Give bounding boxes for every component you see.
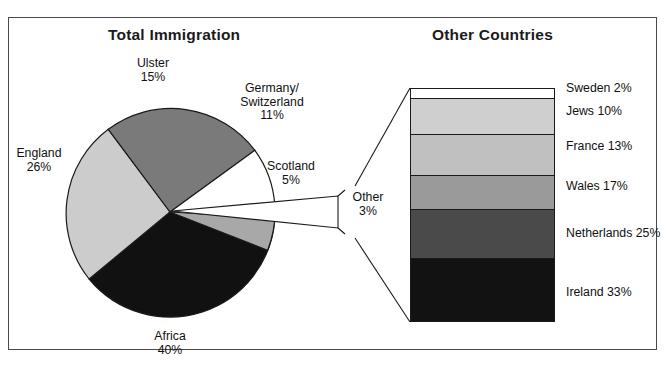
pie-label-africa: Africa 40% bbox=[136, 330, 204, 357]
pie-label-germany-line1: Germany/ bbox=[226, 82, 318, 96]
bar-label-wales: Wales 17% bbox=[566, 179, 628, 193]
pie-label-germany-line2: Switzerland bbox=[226, 96, 318, 110]
pie-label-germany-switzerland: Germany/ Switzerland 11% bbox=[226, 82, 318, 123]
stacked-bar-other-countries bbox=[410, 88, 555, 322]
pie-label-scotland-name: Scotland bbox=[255, 160, 327, 174]
pie-label-england-pct: 26% bbox=[8, 161, 70, 175]
bar-label-france: France 13% bbox=[566, 139, 632, 153]
pie-label-other-pct: 3% bbox=[344, 205, 392, 219]
pie-label-other-name: Other bbox=[344, 191, 392, 205]
bar-label-netherlands: Netherlands 25% bbox=[566, 226, 660, 240]
bar-label-sweden: Sweden 2% bbox=[566, 81, 632, 95]
pie-label-ulster: Ulster 15% bbox=[118, 57, 188, 84]
pie-label-other: Other 3% bbox=[344, 191, 392, 218]
explosion-guide-top bbox=[355, 88, 410, 186]
bar-label-ireland: Ireland 33% bbox=[566, 285, 632, 299]
pie-label-ulster-pct: 15% bbox=[118, 71, 188, 85]
pie-label-scotland-pct: 5% bbox=[255, 174, 327, 188]
pie-label-ulster-name: Ulster bbox=[118, 57, 188, 71]
pie-label-england-name: England bbox=[8, 147, 70, 161]
bar-label-jews: Jews 10% bbox=[566, 104, 622, 118]
bar-segment-sweden bbox=[411, 89, 554, 99]
bar-segment-netherlands bbox=[411, 210, 554, 260]
pie-label-scotland: Scotland 5% bbox=[255, 160, 327, 187]
bar-segment-ireland bbox=[411, 259, 554, 320]
explosion-guide-bottom bbox=[355, 238, 410, 322]
bar-segment-france bbox=[411, 135, 554, 176]
pie-label-germany-pct: 11% bbox=[226, 109, 318, 123]
pie-label-africa-pct: 40% bbox=[136, 344, 204, 358]
bar-segment-wales bbox=[411, 176, 554, 210]
bar-segment-jews bbox=[411, 99, 554, 135]
chart-page: Total Immigration Other Countries Ulster… bbox=[0, 0, 667, 373]
pie-label-africa-name: Africa bbox=[136, 330, 204, 344]
pie-label-england: England 26% bbox=[8, 147, 70, 174]
